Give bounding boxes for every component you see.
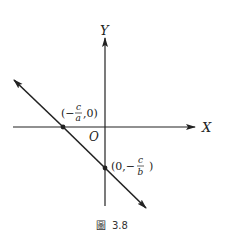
line-ax-by-c (14, 80, 60, 124)
y-intercept-open: (0,− (111, 160, 135, 173)
figure-caption: 圖 3.8 (96, 220, 128, 231)
y-axis-label: Y (100, 23, 110, 38)
x-intercept-point (61, 125, 66, 130)
y-intercept-label: (0,− c b ) (111, 155, 153, 177)
x-intercept-label: (− c a ,0) (61, 102, 98, 123)
x-intercept-denominator: a (76, 113, 81, 123)
x-intercept-numerator: c (76, 102, 81, 112)
y-intercept-close: ) (149, 160, 153, 173)
caption-number: 3.8 (112, 220, 128, 231)
origin-label: O (89, 130, 99, 144)
coordinate-diagram: Y X O (− c a ,0) (0,− c b ) 圖 3.8 (0, 0, 229, 244)
x-intercept-close: ,0) (83, 107, 98, 120)
caption-label: 圖 (96, 220, 106, 231)
y-intercept-point (103, 166, 108, 171)
y-intercept-denominator: b (138, 167, 144, 177)
x-axis-label: X (201, 120, 212, 135)
x-intercept-open: (− (61, 107, 75, 120)
y-intercept-numerator: c (138, 155, 143, 165)
